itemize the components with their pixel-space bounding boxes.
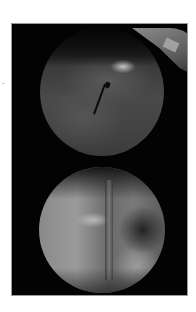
bottom-image-ridge — [105, 180, 113, 281]
bottom-image-bottom-shadow — [39, 268, 165, 293]
image-panel — [11, 23, 188, 296]
bottom-image-top-shadow — [39, 167, 165, 199]
bottom-circular-image — [39, 167, 165, 293]
top-image-shadow — [40, 28, 164, 66]
edge-mark — [2, 83, 5, 84]
